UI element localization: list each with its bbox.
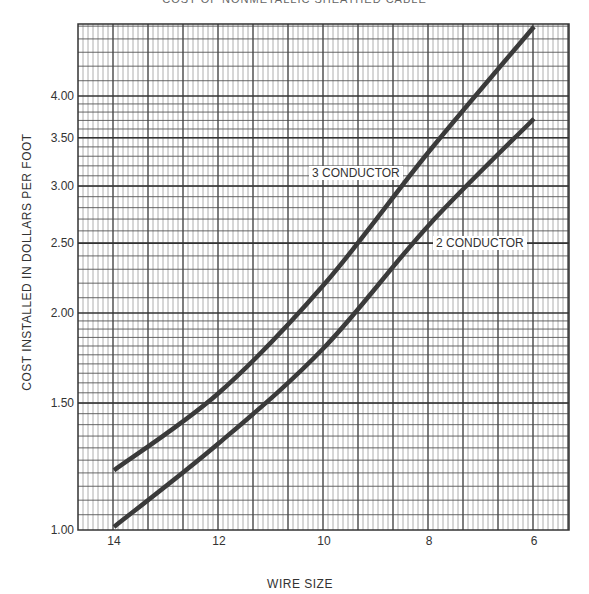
series-label-2-conductor: 2 CONDUCTOR [433,236,527,250]
y-tick-label: 1.50 [51,396,74,410]
x-tick-label: 12 [212,534,225,548]
x-tick-label: 6 [531,534,538,548]
grid-major [78,24,569,530]
chart-plot [0,0,589,594]
x-tick-label: 10 [317,534,330,548]
x-tick-label: 14 [107,534,120,548]
x-axis-label: WIRE SIZE [267,577,333,591]
y-tick-label: 2.00 [51,306,74,320]
y-tick-label: 3.00 [51,179,74,193]
x-tick-label: 8 [426,534,433,548]
series-label-3-conductor: 3 CONDUCTOR [309,166,403,180]
y-tick-label: 2.50 [51,236,74,250]
y-tick-label: 1.00 [51,523,74,537]
y-tick-label: 3.50 [51,131,74,145]
y-axis-label: COST INSTALLED IN DOLLARS PER FOOT [20,133,34,390]
y-tick-label: 4.00 [51,89,74,103]
series-lines [114,27,534,527]
